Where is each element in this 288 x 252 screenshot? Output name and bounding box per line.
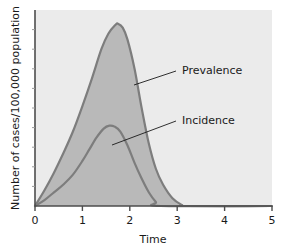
x-tick-label: 1 — [79, 214, 86, 227]
chart-figure: 012345 Prevalence Incidence Time Number … — [0, 0, 288, 252]
x-tick-label: 0 — [32, 214, 39, 227]
epidemiology-area-chart: 012345 Prevalence Incidence Time Number … — [0, 0, 288, 252]
x-axis-ticks: 012345 — [32, 206, 276, 227]
x-tick-label: 4 — [221, 214, 228, 227]
incidence-annotation-label: Incidence — [182, 114, 235, 127]
prevalence-annotation-label: Prevalence — [182, 64, 243, 77]
x-tick-label: 2 — [126, 214, 133, 227]
x-tick-label: 5 — [269, 214, 276, 227]
x-axis-label: Time — [139, 233, 167, 246]
y-axis-label: Number of cases/100,000 population — [9, 6, 22, 210]
x-tick-label: 3 — [174, 214, 181, 227]
